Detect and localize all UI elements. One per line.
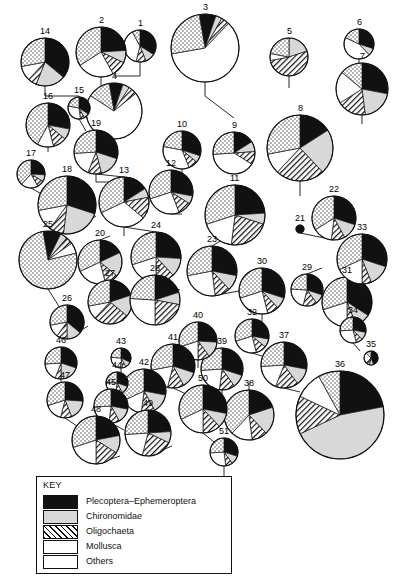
pie-label-21: 21 [295, 214, 305, 223]
connector-line [48, 289, 60, 308]
legend-label: Oligochaeta [86, 527, 134, 536]
pie-label-20: 20 [95, 229, 105, 238]
pie-chart-34 [340, 317, 366, 343]
connector-line [79, 119, 86, 131]
figure-canvas: 1234567891011121314151617181920212223242… [0, 0, 402, 582]
pie-label-24: 24 [151, 221, 161, 230]
pie-chart-49 [125, 410, 171, 456]
pie-label-33: 33 [357, 223, 367, 232]
pie-label-2: 2 [99, 16, 104, 25]
pie-chart-17 [17, 160, 45, 188]
pie-slice-dots [171, 15, 205, 54]
connector-line [203, 433, 214, 442]
legend-label: Mollusca [86, 542, 122, 551]
pie-label-11: 11 [230, 174, 239, 183]
pie-slice-white [340, 330, 356, 343]
pie-label-3: 3 [203, 3, 208, 12]
pie-chart-36 [296, 371, 384, 459]
pie-chart-35 [364, 351, 378, 365]
pie-label-6: 6 [357, 18, 362, 27]
pie-chart-22 [312, 196, 356, 240]
pie-label-16: 16 [43, 92, 53, 101]
pie-label-8: 8 [298, 104, 303, 113]
pie-label-29: 29 [302, 263, 312, 272]
swatch-chironomidae [43, 510, 78, 524]
pie-chart-8 [267, 115, 333, 181]
pie-label-36: 36 [335, 360, 345, 369]
pie-label-7: 7 [360, 52, 365, 61]
pie-label-51: 51 [219, 427, 229, 436]
pie-slice-dots [50, 305, 67, 325]
legend-row: Plecoptera–Ephemeroptera [43, 494, 196, 509]
pie-label-25: 25 [43, 220, 53, 229]
legend-row: Oligochaeta [43, 524, 196, 539]
pie-chart-5 [270, 38, 308, 76]
pie-label-28: 28 [150, 264, 160, 273]
pie-slice-dots [187, 246, 212, 276]
pie-chart-2 [76, 27, 126, 77]
pie-label-5: 5 [287, 27, 292, 36]
swatch-others [43, 555, 78, 569]
swatch-mollusca [43, 540, 78, 554]
pie-label-32: 32 [247, 308, 257, 317]
pie-slice-black [48, 103, 70, 129]
pie-chart-38 [224, 390, 274, 440]
pie-chart-30 [239, 268, 285, 314]
pie-chart-1 [124, 30, 156, 62]
pie-chart-7 [336, 63, 388, 115]
pie-slice-black [284, 342, 307, 369]
pie-label-26: 26 [62, 294, 72, 303]
legend-rows: Plecoptera–EphemeropteraChironomidaeOlig… [43, 494, 196, 569]
pie-label-48: 48 [91, 405, 101, 414]
pie-label-14: 14 [40, 27, 50, 36]
legend-row: Chironomidae [43, 509, 196, 524]
pie-chart-25 [19, 231, 77, 289]
pie-chart-29 [291, 274, 323, 306]
pie-chart-37 [261, 342, 307, 388]
pie-label-13: 13 [119, 166, 129, 175]
pie-label-45: 45 [106, 378, 116, 387]
pie-label-1: 1 [138, 19, 143, 28]
pie-slice-dots [21, 38, 45, 66]
connector-line [353, 343, 360, 351]
pie-label-10: 10 [177, 120, 187, 129]
pie-chart-33 [337, 234, 387, 284]
pie-label-30: 30 [257, 257, 267, 266]
pie-label-43: 43 [116, 337, 126, 346]
pie-label-38: 38 [244, 379, 254, 388]
pie-label-22: 22 [329, 185, 339, 194]
pie-label-46: 46 [56, 336, 66, 345]
pie-chart-47 [47, 382, 83, 418]
pie-chart-layer [17, 14, 388, 466]
legend-key: KEY Plecoptera–EphemeropteraChironomidae… [36, 476, 232, 574]
pie-label-50: 50 [198, 374, 208, 383]
pie-chart-14 [21, 38, 69, 86]
pie-chart-51 [210, 438, 238, 466]
pie-chart-32 [235, 319, 269, 353]
pie-label-31: 31 [342, 266, 352, 275]
pie-chart-23 [187, 246, 237, 296]
pie-label-19: 19 [91, 119, 101, 128]
pie-label-4: 4 [112, 72, 117, 81]
legend-row: Mollusca [43, 539, 196, 554]
pie-chart-19 [74, 130, 118, 174]
pie-chart-48 [72, 416, 120, 464]
pie-slice-black [171, 170, 193, 196]
pie-slice-black [362, 63, 388, 94]
pie-label-27: 27 [105, 269, 115, 278]
pie-chart-3 [171, 14, 239, 82]
pie-chart-6 [344, 29, 374, 59]
connector-line [205, 96, 234, 118]
pie-label-23: 23 [207, 235, 217, 244]
pie-label-15: 15 [74, 86, 84, 95]
pie-label-18: 18 [62, 165, 72, 174]
pie-slice-dots [151, 344, 173, 370]
pie-chart-27 [88, 280, 132, 324]
pie-label-44: 44 [112, 361, 122, 370]
pie-chart-13 [99, 177, 149, 227]
pie-chart-28 [130, 275, 180, 325]
pie-chart-20 [78, 240, 122, 284]
connector-line [173, 388, 186, 394]
pie-label-47: 47 [60, 371, 70, 380]
legend-label: Others [86, 557, 113, 566]
